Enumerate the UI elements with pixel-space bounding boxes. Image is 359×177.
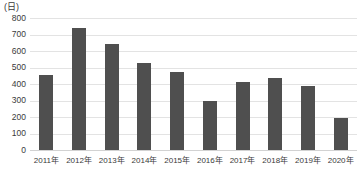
bar bbox=[137, 63, 151, 150]
y-axis-tick-label: 300 bbox=[0, 96, 26, 105]
bar bbox=[170, 72, 184, 150]
bar bbox=[301, 86, 315, 150]
bar bbox=[203, 101, 217, 150]
x-axis-tick-label: 2011年 bbox=[30, 156, 63, 166]
y-axis-tick-label: 0 bbox=[0, 146, 26, 155]
bar-chart: (日) 8007006005004003002001000 2011年2012年… bbox=[0, 0, 359, 177]
x-axis-tick-label: 2014年 bbox=[128, 156, 161, 166]
bar bbox=[236, 82, 250, 150]
x-axis-tick-label: 2013年 bbox=[95, 156, 128, 166]
bar bbox=[72, 28, 86, 150]
bar bbox=[334, 118, 348, 150]
x-axis-ticks: 2011年2012年2013年2014年2015年2016年2017年2018年… bbox=[30, 152, 357, 174]
bar bbox=[39, 75, 53, 150]
y-axis-tick-label: 200 bbox=[0, 113, 26, 122]
bar bbox=[105, 44, 119, 150]
y-axis-tick-label: 700 bbox=[0, 30, 26, 39]
y-axis-tick-label: 600 bbox=[0, 47, 26, 56]
x-axis-tick-label: 2017年 bbox=[226, 156, 259, 166]
y-axis-tick-label: 800 bbox=[0, 14, 26, 23]
gridline bbox=[30, 150, 357, 151]
y-axis-unit-label: (日) bbox=[4, 2, 19, 13]
x-axis-tick-label: 2012年 bbox=[63, 156, 96, 166]
x-axis-tick-label: 2016年 bbox=[194, 156, 227, 166]
y-axis-tick-label: 500 bbox=[0, 63, 26, 72]
y-axis-tick-label: 400 bbox=[0, 80, 26, 89]
y-axis-tick-label: 100 bbox=[0, 129, 26, 138]
x-axis-tick-label: 2018年 bbox=[259, 156, 292, 166]
bar bbox=[268, 78, 282, 150]
plot-area bbox=[30, 18, 357, 150]
x-axis-tick-label: 2015年 bbox=[161, 156, 194, 166]
x-axis-tick-label: 2019年 bbox=[292, 156, 325, 166]
x-axis-tick-label: 2020年 bbox=[324, 156, 357, 166]
bar-series bbox=[30, 18, 357, 150]
